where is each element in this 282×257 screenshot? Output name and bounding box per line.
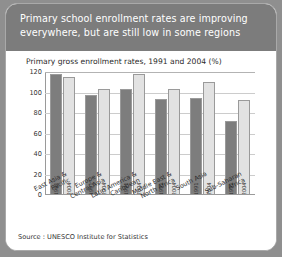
source-note: Source : UNESCO Institute for Statistics <box>18 233 148 241</box>
y-axis-tick-label: 80 <box>34 109 42 117</box>
chart-title: Primary gross enrollment rates, 1991 and… <box>26 57 222 66</box>
y-axis-tick-label: 40 <box>34 150 42 158</box>
figure-frame: Primary school enrollment rates are impr… <box>5 3 277 251</box>
bar: 2004 <box>203 82 215 195</box>
figure-banner: Primary school enrollment rates are impr… <box>6 4 276 51</box>
y-axis-tick-label: 20 <box>34 171 42 179</box>
chart-area: Primary gross enrollment rates, 1991 and… <box>6 51 276 251</box>
y-axis-tick-label: 60 <box>34 130 42 138</box>
y-axis-tick-label: 100 <box>29 89 42 97</box>
y-axis-tick-label: 120 <box>29 68 42 76</box>
banner-title: Primary school enrollment rates are impr… <box>20 12 262 40</box>
